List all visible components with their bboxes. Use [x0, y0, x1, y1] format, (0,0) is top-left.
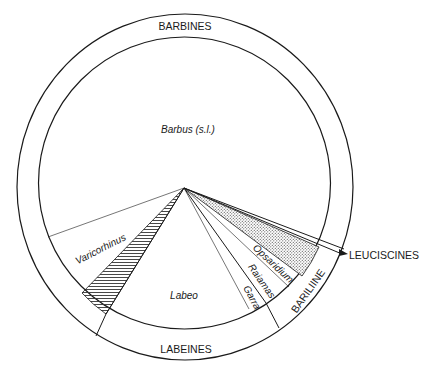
barbine-labeine-ring-divider [96, 314, 106, 336]
cyprinid-genera-wheel-diagram: BARBINES LABEINES BARILIINE LEUCISCINES … [0, 0, 429, 371]
label-leuciscines: LEUCISCINES [349, 249, 419, 261]
label-barbus: Barbus (s.l.) [161, 124, 215, 135]
diagram-canvas: BARBINES LABEINES BARILIINE LEUCISCINES … [0, 0, 429, 371]
label-labeo: Labeo [170, 290, 198, 301]
label-bariliine: BARILIINE [288, 266, 327, 314]
label-barbines: BARBINES [158, 20, 211, 32]
label-labeines: LABEINES [160, 343, 211, 355]
labeine-bariliine-ring-divider [266, 303, 279, 328]
leuciscine-arrowhead-icon [339, 249, 348, 256]
